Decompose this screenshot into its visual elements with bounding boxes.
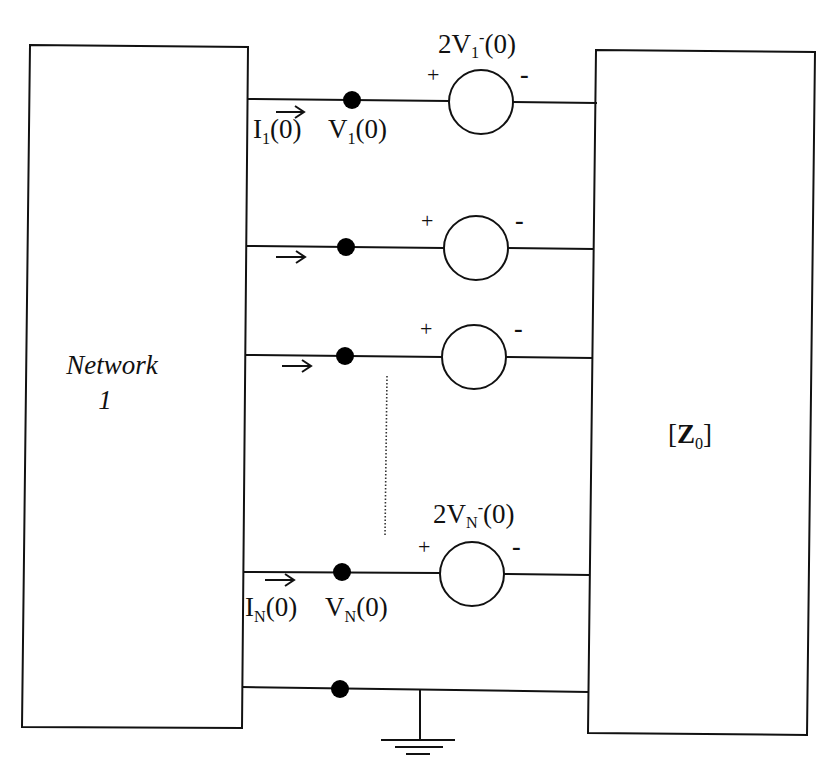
network-label-line1: Network: [52, 352, 172, 379]
port-3-voltage-source: [442, 325, 506, 389]
port-2-node: [337, 238, 355, 256]
port-2-voltage-source: [444, 216, 508, 280]
port-3-minus-sign: -: [514, 316, 523, 342]
port-2-minus-sign: -: [515, 208, 524, 234]
port-n-minus-sign: -: [512, 534, 521, 560]
network-label-line2: 1: [38, 387, 172, 414]
port-2-plus-sign: +: [421, 210, 433, 232]
port-n-plus-sign: +: [418, 536, 430, 558]
port-n-current-arrow: [265, 574, 294, 586]
z0-symbol: Z: [677, 419, 695, 449]
port-1-voltage-source: [449, 70, 513, 134]
port-1-minus-sign: -: [520, 62, 529, 88]
port-1-plus-sign: +: [427, 64, 439, 86]
port-n-voltage-label: VN(0): [325, 594, 388, 625]
ellipsis-dotted-line: [385, 376, 387, 536]
ground-branch: [242, 680, 589, 754]
port-1-node: [343, 91, 361, 109]
port-1-source-label: 2V1-(0): [438, 30, 516, 62]
port-n-current-label: IN(0): [245, 594, 297, 625]
port-3-plus-sign: +: [420, 318, 432, 340]
port-3-node: [336, 347, 354, 365]
port-1-current-label: I1(0): [253, 116, 302, 147]
port-n-node: [333, 563, 351, 581]
port-2-current-arrow: [276, 251, 305, 263]
network-1-label: Network 1: [52, 352, 172, 414]
port-n-voltage-source: [440, 542, 504, 606]
z0-label: [Z0]: [668, 421, 712, 452]
ground-icon: [381, 740, 455, 754]
port-n-source-label: 2VN-(0): [433, 500, 515, 532]
z0-block: [588, 50, 815, 735]
port-3-current-arrow: [282, 360, 311, 372]
ground-node: [331, 680, 349, 698]
port-1-voltage-label: V1(0): [328, 116, 387, 147]
